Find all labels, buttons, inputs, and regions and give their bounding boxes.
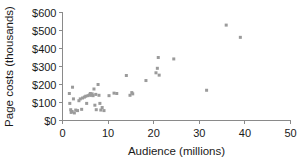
data-point <box>71 86 74 89</box>
data-point <box>131 92 134 95</box>
data-points <box>68 24 242 115</box>
data-point <box>72 97 75 100</box>
x-tick-label: 50 <box>284 127 296 139</box>
data-point <box>172 57 175 60</box>
data-point <box>113 92 116 95</box>
data-point <box>68 102 71 105</box>
data-point <box>225 24 228 27</box>
data-point <box>80 108 83 111</box>
data-point <box>144 79 147 82</box>
data-point <box>101 106 104 109</box>
x-tick-label: 20 <box>148 127 160 139</box>
data-point <box>115 92 118 95</box>
x-tick-label: 30 <box>193 127 205 139</box>
y-tick-label: $300 <box>32 61 56 73</box>
data-point <box>93 104 96 107</box>
y-tick-label: $400 <box>32 43 56 55</box>
y-tick-label: $500 <box>32 25 56 37</box>
data-point <box>128 94 131 97</box>
x-axis-ticks: 01020304050 <box>59 121 296 139</box>
data-point <box>156 67 159 70</box>
y-tick-label: $600 <box>32 7 56 19</box>
plot-area: $0$100$200$300$400$500$600 01020304050 A… <box>0 0 304 160</box>
data-point <box>92 88 95 91</box>
data-point <box>108 94 111 97</box>
data-point <box>205 89 208 92</box>
data-point <box>76 109 79 112</box>
data-point <box>73 111 76 114</box>
x-tick-label: 10 <box>102 127 114 139</box>
scatter-chart: $0$100$200$300$400$500$600 01020304050 A… <box>0 0 304 160</box>
y-tick-label: $100 <box>32 97 56 109</box>
y-tick-label: $200 <box>32 79 56 91</box>
data-point <box>68 92 71 95</box>
data-point <box>157 56 160 59</box>
data-point <box>154 71 157 74</box>
data-point <box>102 109 105 112</box>
y-axis-title: Page costs (thousands) <box>3 6 15 127</box>
x-tick-label: 40 <box>239 127 251 139</box>
data-point <box>125 74 128 77</box>
data-point <box>94 93 97 96</box>
data-point <box>85 102 88 105</box>
data-point <box>97 83 100 86</box>
data-point <box>95 108 98 111</box>
data-point <box>239 36 242 39</box>
data-point <box>98 102 101 105</box>
data-point <box>158 74 161 77</box>
y-axis-ticks: $0$100$200$300$400$500$600 <box>32 7 62 127</box>
x-axis-title: Audience (millions) <box>128 145 225 157</box>
y-tick-label: $0 <box>44 115 56 127</box>
data-point <box>92 94 95 97</box>
data-point <box>97 94 100 97</box>
x-tick-label: 0 <box>59 127 65 139</box>
